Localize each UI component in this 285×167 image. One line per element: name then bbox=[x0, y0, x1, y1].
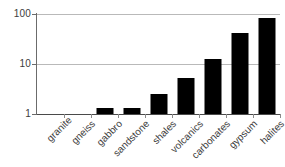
y-tick-label-10: 10 bbox=[19, 59, 31, 69]
bar-slot bbox=[64, 14, 91, 114]
bar-slot bbox=[37, 14, 64, 114]
bar-slot bbox=[226, 14, 253, 114]
y-axis-labels: 100 10 1 bbox=[0, 0, 31, 167]
bar-slot bbox=[145, 14, 172, 114]
bar-slot bbox=[199, 14, 226, 114]
x-axis-labels: granitegneissgabbrosandstoneshalesvolcan… bbox=[37, 114, 280, 167]
x-axis-tick bbox=[280, 114, 281, 118]
bar bbox=[231, 33, 248, 114]
bar-slot bbox=[253, 14, 280, 114]
bar-slot bbox=[172, 14, 199, 114]
bar-slot bbox=[118, 14, 145, 114]
bar bbox=[258, 18, 275, 114]
bar bbox=[177, 78, 194, 114]
y-tick-label-1: 1 bbox=[25, 109, 31, 119]
log-bar-chart: 100 10 1 granitegneissgabbrosandstonesha… bbox=[0, 0, 285, 167]
y-tick-label-100: 100 bbox=[14, 9, 31, 19]
bar bbox=[150, 94, 167, 114]
plot-area bbox=[37, 14, 280, 114]
bar bbox=[204, 59, 221, 114]
bar-slot bbox=[91, 14, 118, 114]
